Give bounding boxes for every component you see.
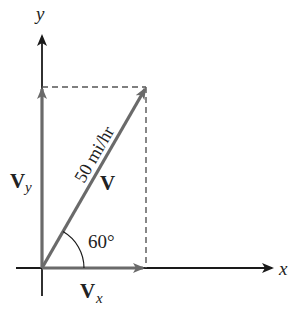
svg-text:y: y <box>23 179 32 195</box>
svg-text:x: x <box>95 290 103 306</box>
angle-label: 60° <box>88 231 115 252</box>
svg-text:V: V <box>10 169 25 193</box>
vy-label: V y <box>10 169 32 195</box>
vector-diagram: y x 60° V 50 mi/hr V y V x <box>0 0 290 317</box>
y-axis-label: y <box>34 3 45 24</box>
angle-arc <box>63 232 84 268</box>
vector-v-label: V <box>100 171 115 195</box>
vx-label: V x <box>80 279 103 306</box>
svg-text:V: V <box>80 279 95 303</box>
axes <box>16 36 272 296</box>
x-axis-label: x <box>278 258 288 279</box>
